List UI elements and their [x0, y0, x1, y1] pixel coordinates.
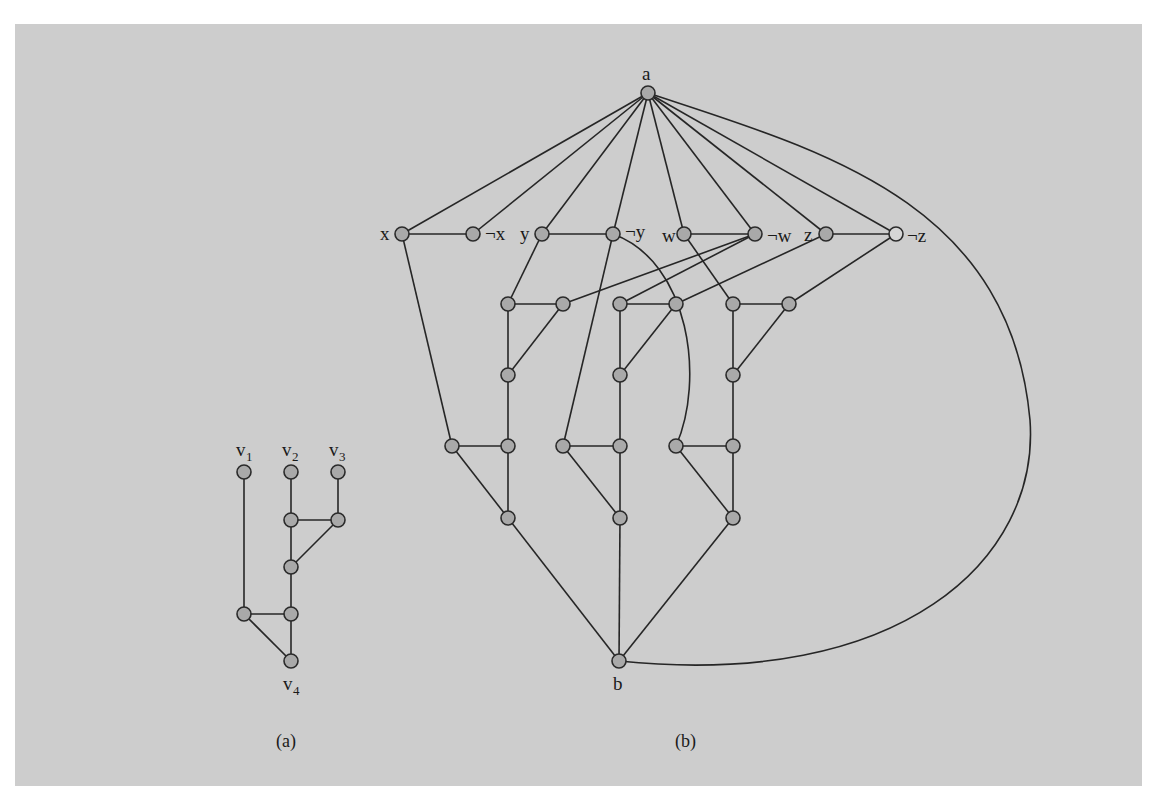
label-v1: v 1 — [236, 439, 253, 464]
label-a: a — [642, 63, 651, 84]
panel-b-edge — [620, 234, 755, 304]
panel-b-edge — [563, 446, 620, 518]
label-v2: v 2 — [282, 439, 299, 464]
panel-b-edge — [508, 518, 619, 661]
panel-b-edge — [613, 93, 648, 234]
panel-b-curved-edge — [619, 93, 1031, 665]
panel-b-node-g1_l — [445, 439, 459, 453]
panel-b-edge — [648, 93, 684, 234]
panel-b-node-g1_end — [501, 511, 515, 525]
svg-text:1: 1 — [246, 449, 253, 464]
panel-b-edge — [648, 93, 755, 234]
panel-b-node-g3_end — [726, 511, 740, 525]
panel-b-edge — [452, 446, 508, 518]
label-not-w: ¬w — [767, 225, 792, 246]
panel-b-edge — [733, 304, 789, 375]
panel-b-curved-edge — [613, 234, 690, 446]
panel-b-node-g2_mid — [613, 368, 627, 382]
panel-b-edge — [648, 93, 896, 234]
label-not-z: ¬z — [907, 225, 926, 246]
panel-b-edge — [473, 93, 648, 234]
panel-b-edge — [619, 518, 620, 661]
label-v3: v 3 — [329, 439, 346, 464]
panel-b-node-g3_bot — [726, 439, 740, 453]
panel-a-node-v1 — [237, 465, 251, 479]
panel-a-node-a_n4 — [284, 513, 298, 527]
svg-text:v: v — [236, 439, 246, 460]
label-not-x: ¬x — [485, 223, 506, 244]
panel-b-edge — [508, 234, 542, 304]
panel-b-edges — [402, 93, 1031, 665]
panel-b-edge — [402, 93, 648, 234]
panel-b-edge — [402, 234, 452, 446]
panel-b-node-y — [535, 227, 549, 241]
caption-a: (a) — [276, 731, 296, 752]
panel-b-node-g3_mid — [726, 368, 740, 382]
panel-b-node-a — [641, 86, 655, 100]
panel-b-node-g2_end — [613, 511, 627, 525]
panel-b-edge — [619, 518, 733, 661]
panel-b-node-g2_top — [613, 297, 627, 311]
panel-b-node-x — [395, 227, 409, 241]
panel-b-node-g1_bot — [501, 439, 515, 453]
panel-a-node-a_n5 — [331, 513, 345, 527]
panel-b-node-g2_r — [669, 297, 683, 311]
panel-a-node-v3 — [331, 465, 345, 479]
svg-text:4: 4 — [293, 683, 300, 698]
panel-b-node-g1_mid — [501, 368, 515, 382]
svg-text:v: v — [282, 439, 292, 460]
label-w: w — [662, 225, 676, 246]
svg-text:3: 3 — [339, 449, 346, 464]
panel-b-node-w — [677, 227, 691, 241]
panel-a-node-v4 — [284, 654, 298, 668]
panel-a-node-a_n8 — [284, 607, 298, 621]
panel-b-edge — [676, 446, 733, 518]
svg-text:v: v — [329, 439, 339, 460]
panel-b-node-g1_r — [556, 297, 570, 311]
panel-b-node-ny — [606, 227, 620, 241]
label-not-y: ¬y — [625, 221, 646, 242]
panel-a-node-v2 — [284, 465, 298, 479]
panel-a-node-a_n7 — [237, 607, 251, 621]
panel-b-node-g3_top — [726, 297, 740, 311]
panel-b-node-g2_bot — [613, 439, 627, 453]
svg-text:v: v — [283, 673, 293, 694]
panel-b-edge — [508, 304, 563, 375]
label-b: b — [613, 673, 623, 694]
panel-a-edge — [244, 614, 291, 661]
svg-text:2: 2 — [292, 449, 299, 464]
panel-b-node-nz — [889, 227, 903, 241]
panel-b-edge — [563, 234, 613, 446]
panel-a-edge — [291, 520, 338, 567]
panel-b-nodes — [395, 86, 903, 668]
caption-b: (b) — [675, 731, 696, 752]
panel-a-node-a_n6 — [284, 560, 298, 574]
panel-b-edge — [648, 93, 826, 234]
panel-b-node-g3_l — [669, 439, 683, 453]
panel-b-node-nx — [466, 227, 480, 241]
panel-b-node-nw — [748, 227, 762, 241]
panel-b-edge — [620, 304, 676, 375]
panel-b-node-b — [612, 654, 626, 668]
panel-b-node-g3_r — [782, 297, 796, 311]
label-v4: v 4 — [283, 673, 300, 698]
panel-b-node-z — [819, 227, 833, 241]
panel-b-node-g1_top — [501, 297, 515, 311]
panel-b-edge — [542, 93, 648, 234]
label-x: x — [380, 223, 390, 244]
graph-figure: v 1 v 2 v 3 v 4 (a) a b x ¬x y ¬y w ¬w z… — [0, 0, 1173, 809]
panel-b-node-g2_l — [556, 439, 570, 453]
label-y: y — [520, 223, 530, 244]
label-z: z — [804, 224, 812, 245]
